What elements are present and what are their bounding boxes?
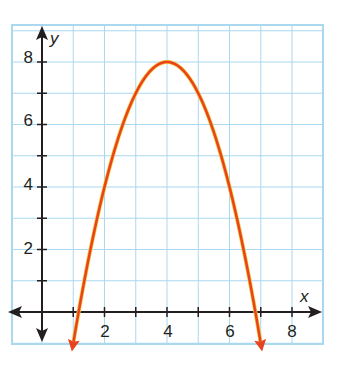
y-tick-label-8: 8 — [24, 48, 33, 67]
x-axis — [8, 306, 322, 318]
x-tick-label-2: 2 — [100, 322, 109, 341]
y-axis — [36, 26, 48, 342]
parabola-chart: x y 2 4 6 8 8 6 4 2 — [0, 0, 339, 369]
y-tick-label-6: 6 — [24, 111, 33, 130]
grid — [12, 25, 323, 344]
y-axis-label: y — [49, 29, 60, 48]
y-tick-label-2: 2 — [24, 239, 33, 258]
axis-ticks — [37, 62, 292, 317]
x-tick-label-6: 6 — [225, 322, 234, 341]
x-axis-label: x — [299, 287, 309, 306]
x-tick-label-8: 8 — [287, 322, 296, 341]
x-tick-label-4: 4 — [163, 322, 172, 341]
y-tick-label-4: 4 — [24, 175, 33, 194]
